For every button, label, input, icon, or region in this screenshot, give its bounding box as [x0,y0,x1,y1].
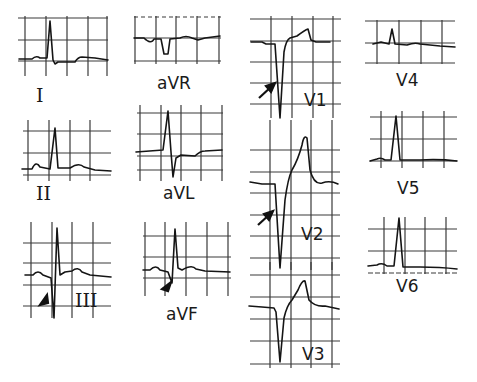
lead-V3-label: V3 [302,344,324,364]
lead-V2-panel: V2 [250,120,340,270]
lead-V2-grid [250,120,340,270]
lead-III-trace [25,228,111,318]
lead-II-label: II [36,182,51,204]
lead-II-grid [23,120,111,181]
lead-III-panel: III [23,222,111,318]
lead-I-panel: I [18,16,108,106]
lead-V1-arrow-icon [259,83,275,98]
lead-III-arrowhead-icon [40,295,48,305]
lead-aVF-grid [143,222,231,296]
lead-aVR-label: aVR [157,73,191,93]
lead-aVR-panel: aVR [134,16,221,93]
ecg-figure: I aVR [0,0,477,382]
lead-aVL-label: aVL [163,183,195,203]
lead-V4-label: V4 [396,70,418,90]
lead-V6-grid [368,217,457,274]
lead-V5-panel: V5 [370,111,457,198]
lead-V1-panel: V1 [250,16,341,118]
lead-V4-trace [373,29,455,47]
lead-II-panel: II [22,120,111,204]
lead-I-trace [19,21,108,64]
lead-V3-trace [249,281,339,362]
lead-aVF-panel: aVF [143,222,231,324]
lead-V1-grid [250,16,341,118]
lead-V5-label: V5 [397,178,419,198]
lead-II-trace [22,128,111,171]
lead-aVF-arrowhead-icon [162,282,171,291]
lead-aVL-trace [136,111,222,177]
lead-aVF-label: aVF [166,304,198,324]
lead-V2-label: V2 [301,224,323,244]
lead-III-grid [23,222,111,318]
lead-V3-grid [250,262,340,368]
lead-V6-trace [368,218,457,269]
lead-V6-panel: V6 [368,217,457,296]
lead-V1-label: V1 [304,90,326,110]
lead-aVR-trace [134,36,220,54]
lead-V4-panel: V4 [365,20,455,90]
lead-V3-panel: V3 [249,262,340,368]
lead-aVL-grid [137,105,223,181]
lead-V6-label: V6 [396,276,418,296]
lead-V2-arrow-icon [258,211,273,225]
lead-V2-trace [250,137,338,268]
lead-I-label: I [36,84,44,106]
lead-aVL-panel: aVL [136,105,223,203]
lead-III-label: III [75,289,98,311]
lead-I-grid [18,16,108,76]
